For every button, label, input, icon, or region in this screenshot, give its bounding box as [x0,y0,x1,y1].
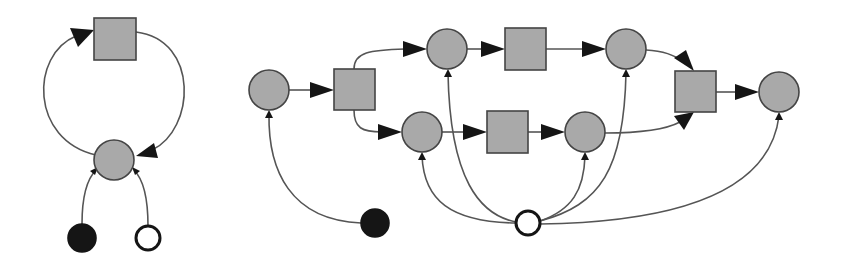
edge-s1-to-c2 [354,49,405,69]
edge-left-square-to-circle [136,32,184,150]
arrowhead-icon [378,124,402,140]
pipeline-circle-node-c5 [565,112,605,152]
edge-white-to-c4 [422,156,516,223]
edge-left-white-to-circle [134,170,148,226]
left-white-token [136,226,160,250]
arrowhead-icon [403,41,427,57]
right-pipeline-diagram [249,28,799,237]
arrowhead-icon [622,69,630,77]
arrowhead-icon [582,41,606,57]
pipeline-circle-node-c2 [427,29,467,69]
edge-black-to-c1 [269,114,361,223]
pipeline-black-token [361,209,389,237]
pipeline-circle-node-c3 [606,29,646,69]
pipeline-circle-node-c1 [249,70,289,110]
pipeline-square-node-s4 [675,71,716,112]
arrowhead-icon [674,50,694,71]
edge-s1-to-c4 [354,110,382,132]
diagram-canvas [0,0,844,269]
arrowhead-icon [463,124,487,140]
pipeline-square-node-s1 [334,69,375,110]
left-circle-node [94,140,134,180]
left-cycle-diagram [44,18,185,252]
left-square-node [94,18,136,60]
pipeline-circle-node-c4 [402,112,442,152]
pipeline-circle-node-c6 [759,72,799,112]
edge-left-circle-to-square [44,36,96,155]
pipeline-square-node-s3 [487,111,528,153]
arrowhead-icon [541,124,565,140]
arrowhead-icon [735,84,759,100]
pipeline-white-token [516,211,540,235]
edge-white-to-c5 [540,156,585,221]
left-black-token [68,224,96,252]
arrowhead-icon [265,110,273,118]
arrowhead-icon [481,41,505,57]
edge-c5-to-s4 [605,122,680,133]
arrowhead-icon [136,143,158,158]
arrowhead-icon [310,82,334,98]
arrowhead-icon [444,69,452,77]
arrowhead-icon [775,112,783,120]
arrowhead-icon [581,152,589,160]
arrowhead-icon [132,167,140,175]
edge-left-black-to-circle [82,170,96,224]
arrowhead-icon [418,152,426,160]
arrowhead-icon [674,112,694,130]
pipeline-square-node-s2 [505,28,546,70]
